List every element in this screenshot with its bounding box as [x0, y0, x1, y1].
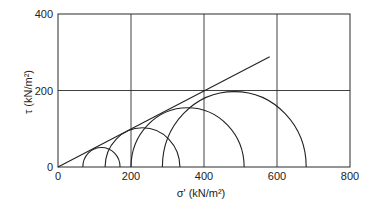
- y-tick-labels: 0 200 400: [35, 8, 53, 173]
- mohr-circles: [83, 92, 306, 167]
- x-tick-0: 0: [55, 170, 61, 182]
- x-tick-800: 800: [341, 170, 359, 182]
- mohr-circle-chart: 0 200 400 600 800 0 200 400 σ' (kN/m²) τ…: [0, 0, 374, 210]
- y-tick-0: 0: [47, 161, 53, 173]
- x-tick-600: 600: [268, 170, 286, 182]
- mohr-circle: [131, 108, 244, 167]
- x-tick-200: 200: [122, 170, 140, 182]
- y-tick-400: 400: [35, 8, 53, 20]
- y-tick-200: 200: [35, 85, 53, 97]
- mohr-circle: [83, 147, 120, 167]
- x-tick-400: 400: [195, 170, 213, 182]
- mohr-circle: [105, 128, 180, 167]
- y-axis-label: τ (kN/m²): [22, 70, 34, 114]
- x-tick-labels: 0 200 400 600 800: [55, 170, 359, 182]
- x-axis-label: σ' (kN/m²): [177, 187, 226, 199]
- mohr-circle: [162, 92, 306, 167]
